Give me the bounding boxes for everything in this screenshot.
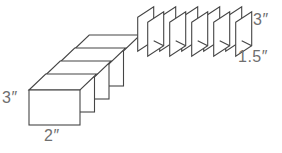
folded-cards-group bbox=[138, 7, 252, 57]
cards-diagram-canvas bbox=[0, 0, 282, 153]
folded-card-height-label: 3″ bbox=[253, 12, 269, 28]
open-cards-group bbox=[29, 35, 140, 125]
folded-cards-figure: 3″ 2″ 3″ 1.5″ bbox=[0, 0, 282, 153]
open-card-height-label: 3″ bbox=[2, 90, 18, 106]
folded-card-width-label: 1.5″ bbox=[238, 49, 268, 65]
open-card-front bbox=[29, 90, 80, 125]
open-card-width-label: 2″ bbox=[44, 128, 60, 144]
